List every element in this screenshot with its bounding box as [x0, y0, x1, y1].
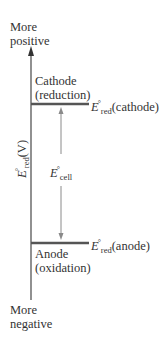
anode-label-line2: (oxidation) — [35, 261, 91, 275]
bottom-label-line1: More — [10, 303, 52, 317]
ylabel-unit: (V) — [15, 140, 29, 157]
ylabel-sub: red — [21, 157, 31, 168]
cathode-suffix: (cathode) — [112, 100, 159, 114]
anode-label-line1: Anode — [35, 247, 91, 261]
arrowhead-down-icon — [59, 233, 64, 240]
more-positive-label: More positive — [10, 20, 50, 48]
cathode-label-line2: (reduction) — [35, 88, 91, 102]
cathode-sub: red — [101, 106, 112, 116]
anode-sub: red — [101, 245, 112, 255]
cathode-label-line1: Cathode — [35, 74, 91, 88]
y-axis-label: E°red(V) — [12, 140, 33, 178]
bottom-label-line2: negative — [10, 317, 52, 331]
cell-sub: cell — [60, 172, 72, 182]
top-label-line2: positive — [10, 34, 50, 48]
more-negative-label: More negative — [10, 303, 52, 331]
top-label-line1: More — [10, 20, 50, 34]
anode-label: Anode (oxidation) — [35, 247, 91, 275]
cell-potential-label: E°cell — [50, 163, 72, 184]
cathode-potential-label: E°red(cathode) — [91, 97, 159, 118]
cathode-label: Cathode (reduction) — [35, 74, 91, 102]
arrowhead-up-icon — [59, 107, 64, 114]
ylabel-e: E — [15, 170, 29, 178]
anode-suffix: (anode) — [112, 239, 150, 253]
anode-potential-label: E°red(anode) — [91, 236, 150, 257]
ylabel-degree: ° — [14, 168, 23, 171]
